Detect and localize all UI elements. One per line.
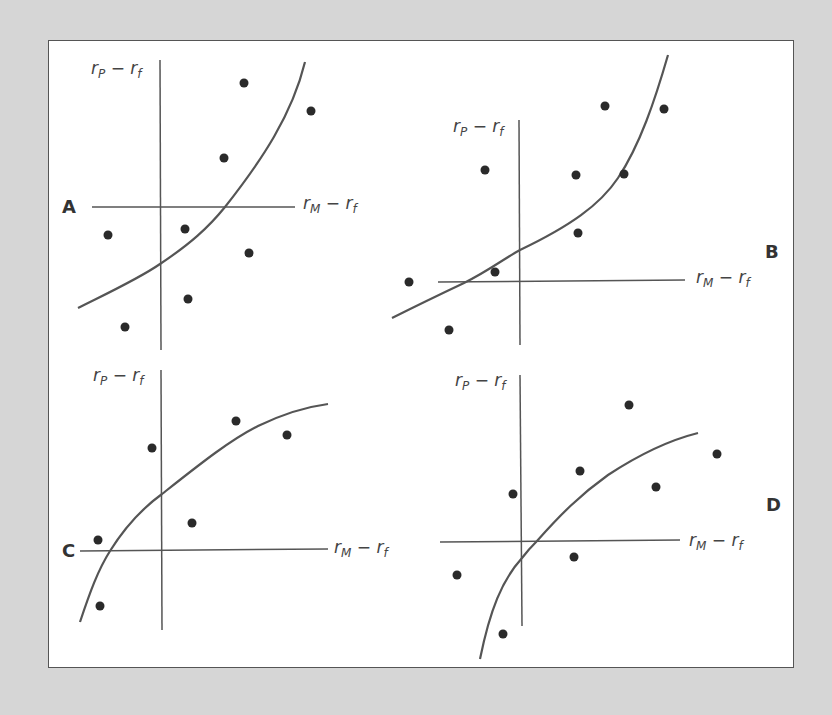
panel-a-point xyxy=(121,323,130,332)
panel-d-x-axis-label: rM − rf xyxy=(689,530,743,553)
panel-b-curve xyxy=(392,55,668,318)
panel-b-point xyxy=(601,102,610,111)
panel-label-c: C xyxy=(62,540,75,561)
panel-d-point xyxy=(713,450,722,459)
panel-label-d: D xyxy=(766,494,781,515)
panel-b-point xyxy=(481,166,490,175)
panel-b-point xyxy=(574,229,583,238)
panel-b-x-axis-label: rM − rf xyxy=(696,267,750,290)
panel-c-point xyxy=(148,444,157,453)
panel-b-point xyxy=(491,268,500,277)
panel-b-x-axis xyxy=(438,280,685,282)
panel-b-point xyxy=(445,326,454,335)
panel-d-point xyxy=(625,401,634,410)
characteristic-lines-figure xyxy=(0,0,832,715)
panel-a-point xyxy=(220,154,229,163)
panel-d-point xyxy=(453,571,462,580)
panel-b-point xyxy=(620,170,629,179)
panel-d-point xyxy=(499,630,508,639)
panel-a-x-axis-label: rM − rf xyxy=(303,193,357,216)
panel-a-point xyxy=(245,249,254,258)
panel-d-point xyxy=(652,483,661,492)
panel-b-point xyxy=(405,278,414,287)
panel-d-y-axis-label: rP − rf xyxy=(455,370,506,393)
panel-label-b: B xyxy=(765,241,779,262)
panel-d-point xyxy=(576,467,585,476)
panel-b-point xyxy=(660,105,669,114)
panel-b-point xyxy=(572,171,581,180)
panel-c-x-axis-label: rM − rf xyxy=(334,537,388,560)
panel-b-y-axis-label: rP − rf xyxy=(453,116,504,139)
panel-a-plot xyxy=(78,60,305,350)
panel-d-y-axis xyxy=(520,375,522,626)
panel-d-point xyxy=(570,553,579,562)
panel-b-y-axis xyxy=(519,120,520,345)
panel-c-plot xyxy=(80,370,328,630)
panel-c-y-axis-label: rP − rf xyxy=(93,365,144,388)
panel-c-x-axis xyxy=(80,549,328,551)
panel-d-curve xyxy=(480,433,698,659)
panel-c-point xyxy=(96,602,105,611)
panel-a-y-axis-label: rP − rf xyxy=(91,58,142,81)
panel-c-point xyxy=(188,519,197,528)
panel-c-y-axis xyxy=(161,370,162,630)
panel-a-curve xyxy=(78,62,305,308)
panel-label-a: A xyxy=(62,196,76,217)
panel-d-plot xyxy=(440,375,698,659)
panel-a-point xyxy=(307,107,316,116)
panel-a-point xyxy=(240,79,249,88)
panel-c-point xyxy=(94,536,103,545)
panel-a-point xyxy=(184,295,193,304)
panel-c-point xyxy=(283,431,292,440)
panel-d-x-axis xyxy=(440,540,680,542)
panel-a-point xyxy=(181,225,190,234)
panel-d-point xyxy=(509,490,518,499)
panel-a-y-axis xyxy=(160,60,161,350)
panel-a-point xyxy=(104,231,113,240)
panel-c-point xyxy=(232,417,241,426)
panel-b-plot xyxy=(392,55,685,345)
